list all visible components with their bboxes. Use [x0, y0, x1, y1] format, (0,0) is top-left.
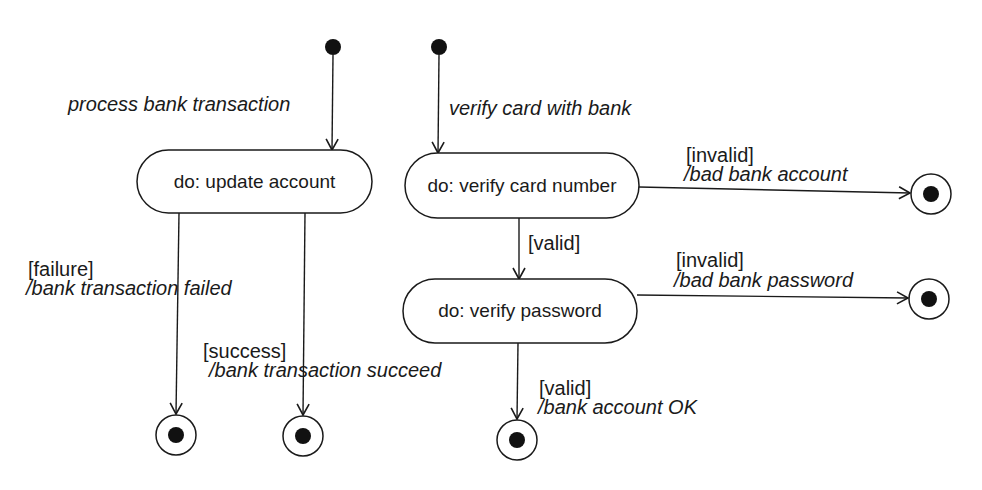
guard-success: [success]: [203, 341, 286, 361]
transition-verify-card-with-bank: [438, 55, 439, 153]
transition-valid-password: [517, 343, 518, 419]
action-bank-transaction-failed: /bank transaction failed: [26, 278, 232, 298]
guard-invalid-card: [invalid]: [686, 145, 754, 165]
action-bad-bank-password: /bad bank password: [674, 270, 853, 290]
action-bank-account-ok: /bank account OK: [538, 397, 697, 417]
final-state-failure: [156, 415, 196, 455]
guard-valid-card: [valid]: [528, 233, 580, 253]
final-state-success: [283, 416, 323, 456]
guard-invalid-password: [invalid]: [676, 250, 744, 270]
initial-state-left: [325, 39, 341, 55]
event-verify-card-with-bank: verify card with bank: [449, 98, 631, 118]
final-state-bad-password: [909, 279, 949, 319]
state-update-account-label: do: update account: [137, 172, 372, 192]
state-verify-card-number-label: do: verify card number: [405, 176, 639, 196]
transition-invalid-card: [639, 187, 910, 193]
final-state-bad-account: [911, 174, 951, 214]
transition-failure: [176, 213, 179, 414]
event-process-bank-transaction: process bank transaction: [68, 94, 290, 114]
guard-valid-password: [valid]: [539, 378, 591, 398]
action-bank-transaction-succeed: /bank transaction succeed: [209, 360, 441, 380]
final-state-account-ok: [497, 420, 537, 460]
state-verify-password-label: do: verify password: [403, 301, 637, 321]
state-diagram-canvas: [0, 0, 982, 490]
transition-process-bank-transaction: [332, 55, 333, 150]
guard-failure: [failure]: [28, 259, 94, 279]
action-bad-bank-account: /bad bank account: [684, 164, 847, 184]
initial-state-right: [431, 39, 447, 55]
transition-success: [303, 213, 305, 415]
transition-invalid-password: [637, 295, 908, 298]
